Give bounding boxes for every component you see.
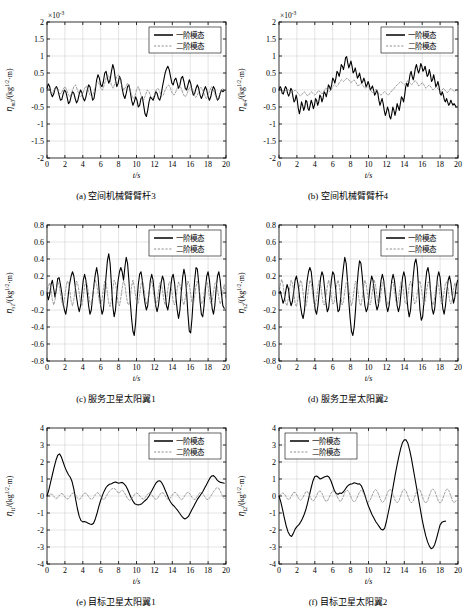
- x-tick-label: 16: [418, 566, 426, 575]
- x-tick-label: 2: [295, 363, 299, 372]
- x-axis-label: t/s: [133, 374, 141, 383]
- y-tick-label: 0.6: [266, 238, 276, 247]
- y-tick-label: -0.5: [31, 103, 44, 112]
- x-tick-label: 6: [331, 363, 335, 372]
- x-tick-label: 6: [99, 566, 103, 575]
- y-tick-label: 2: [272, 458, 276, 467]
- y-tick-label: -2: [37, 154, 44, 163]
- x-tick-label: 4: [313, 566, 317, 575]
- y-tick-label: 0: [40, 492, 44, 501]
- plot-e: 02468101214161820-4-3-2-101234t/sηt1/(kg…: [0, 406, 232, 609]
- y-tick-label: -4: [37, 560, 44, 569]
- legend-label-2: 二阶模态: [408, 244, 437, 254]
- x-tick-label: 6: [331, 160, 335, 169]
- y-tick-label: 1.5: [266, 35, 276, 44]
- legend-label-1: 一阶模态: [176, 30, 205, 40]
- y-tick-label: -0.6: [263, 340, 276, 349]
- y-tick-label: -4: [269, 560, 276, 569]
- chart-panel-d: 02468101214161820-0.8-0.6-0.4-0.200.20.4…: [232, 203, 464, 406]
- x-tick-label: 0: [45, 363, 49, 372]
- chart-panel-f: 02468101214161820-4-3-2-101234t/sηt2/(kg…: [232, 406, 464, 609]
- y-tick-label: 2: [40, 18, 44, 27]
- chart-panel-b: 02468101214161820-2-1.5-1-0.500.511.52×1…: [232, 0, 464, 203]
- y-tick-label: 0.2: [266, 272, 276, 281]
- x-axis-label: t/s: [365, 577, 373, 586]
- x-tick-label: 18: [436, 566, 444, 575]
- y-tick-label: 0: [272, 492, 276, 501]
- x-tick-label: 10: [133, 363, 141, 372]
- y-tick-label: 0.8: [34, 221, 44, 230]
- x-tick-label: 20: [222, 160, 230, 169]
- x-tick-label: 0: [45, 160, 49, 169]
- x-tick-label: 8: [117, 160, 121, 169]
- legend: 一阶模态二阶模态: [149, 433, 221, 459]
- x-tick-label: 16: [418, 160, 426, 169]
- chart-panel-a: 02468101214161820-2-1.5-1-0.500.511.52×1…: [0, 0, 232, 203]
- y-tick-label: -3: [269, 543, 276, 552]
- x-tick-label: 6: [99, 363, 103, 372]
- panel-caption-e: (e) 目标卫星太阳翼1: [0, 595, 232, 608]
- y-tick-label: 0.8: [266, 221, 276, 230]
- x-axis-label: t/s: [133, 171, 141, 180]
- y-tick-label: -2: [269, 526, 276, 535]
- y-tick-label: 0.4: [34, 255, 44, 264]
- x-tick-label: 10: [365, 160, 373, 169]
- x-tick-label: 6: [99, 160, 103, 169]
- x-tick-label: 12: [150, 363, 158, 372]
- x-tick-label: 4: [81, 160, 85, 169]
- x-tick-label: 20: [454, 160, 462, 169]
- panel-caption-d: (d) 服务卫星太阳翼2: [232, 392, 464, 405]
- x-tick-label: 10: [365, 363, 373, 372]
- x-tick-label: 16: [186, 363, 194, 372]
- y-tick-label: 4: [272, 424, 276, 433]
- y-tick-label: -2: [37, 526, 44, 535]
- y-tick-label: 2: [40, 458, 44, 467]
- x-tick-label: 2: [295, 566, 299, 575]
- x-tick-label: 4: [81, 363, 85, 372]
- figure-sheet: 02468101214161820-2-1.5-1-0.500.511.52×1…: [0, 0, 464, 610]
- x-tick-label: 18: [436, 160, 444, 169]
- y-tick-label: 0.2: [34, 272, 44, 281]
- legend-label-2: 二阶模态: [176, 447, 205, 457]
- x-axis-label: t/s: [365, 171, 373, 180]
- panel-caption-f: (f) 目标卫星太阳翼2: [232, 595, 464, 608]
- x-tick-label: 2: [63, 566, 67, 575]
- y-tick-label: -2: [269, 154, 276, 163]
- y-tick-label: 1: [40, 475, 44, 484]
- x-tick-label: 12: [382, 160, 390, 169]
- y-tick-label: -3: [37, 543, 44, 552]
- x-tick-label: 20: [222, 566, 230, 575]
- x-tick-label: 10: [365, 566, 373, 575]
- legend-label-1: 一阶模态: [176, 233, 205, 243]
- x-tick-label: 20: [454, 363, 462, 372]
- y-tick-label: 0: [40, 86, 44, 95]
- y-tick-label: 2: [272, 18, 276, 27]
- x-tick-label: 16: [186, 566, 194, 575]
- y-tick-label: -0.6: [31, 340, 44, 349]
- x-tick-label: 14: [168, 363, 176, 372]
- x-tick-label: 14: [168, 160, 176, 169]
- panel-caption-b: (b) 空间机械臂臂杆4: [232, 189, 464, 202]
- x-axis-label: t/s: [365, 374, 373, 383]
- y-tick-label: -1: [37, 509, 44, 518]
- legend-label-1: 一阶模态: [176, 436, 205, 446]
- y-tick-label: 0: [272, 86, 276, 95]
- legend-label-1: 一阶模态: [408, 233, 437, 243]
- plot-f: 02468101214161820-4-3-2-101234t/sηt2/(kg…: [232, 406, 464, 609]
- panel-caption-a: (a) 空间机械臂臂杆3: [0, 189, 232, 202]
- x-tick-label: 10: [133, 160, 141, 169]
- x-tick-label: 0: [277, 160, 281, 169]
- x-tick-label: 12: [150, 566, 158, 575]
- y-tick-label: -0.2: [263, 306, 276, 315]
- x-tick-label: 4: [313, 363, 317, 372]
- y-tick-label: 0: [272, 289, 276, 298]
- y-tick-label: -0.8: [31, 357, 44, 366]
- x-tick-label: 12: [382, 363, 390, 372]
- panel-caption-c: (c) 服务卫星太阳翼1: [0, 392, 232, 405]
- x-tick-label: 8: [349, 363, 353, 372]
- y-tick-label: 0.6: [34, 238, 44, 247]
- x-tick-label: 14: [168, 566, 176, 575]
- x-tick-label: 2: [63, 363, 67, 372]
- legend-label-1: 一阶模态: [312, 436, 341, 446]
- legend-label-2: 二阶模态: [312, 447, 341, 457]
